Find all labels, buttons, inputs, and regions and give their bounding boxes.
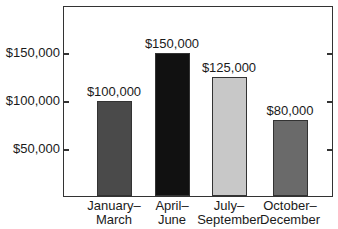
y-tick-left-50000	[63, 149, 69, 151]
bar-july-september	[212, 77, 247, 196]
value-label-april-june: $150,000	[132, 36, 212, 51]
value-label-october-december: $80,000	[250, 103, 330, 118]
value-label-january-march: $100,000	[74, 84, 154, 99]
y-tick-left-100000	[63, 101, 69, 103]
y-tick-label-50000: $50,000	[0, 141, 60, 156]
value-label-july-september: $125,000	[189, 60, 269, 75]
y-tick-right-150000	[327, 53, 333, 55]
y-tick-label-100000: $100,000	[0, 93, 60, 108]
x-label-line-1: October–	[250, 199, 330, 213]
y-tick-label-150000: $150,000	[0, 45, 60, 60]
bar-october-december	[273, 120, 308, 196]
bar-april-june	[155, 53, 190, 196]
bar-january-march	[97, 101, 132, 196]
y-tick-right-50000	[327, 149, 333, 151]
x-label-october-december: October– December	[250, 199, 330, 227]
y-tick-left-150000	[63, 53, 69, 55]
x-label-line-2: December	[250, 213, 330, 227]
